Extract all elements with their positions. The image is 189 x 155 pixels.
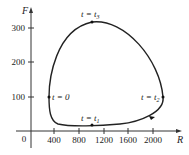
y-tick-label-300: 300 [12,23,26,33]
label-t2: t = t2 [141,92,160,103]
y-tick-label-100: 100 [12,92,26,102]
x-tick-label-1600: 1600 [119,135,138,145]
x-tick-label-1200: 1200 [95,135,114,145]
x-tick-label-400: 400 [47,135,61,145]
direction-arrow-icon [149,116,155,120]
x-axis-arrow-icon [176,129,182,133]
label-t3: t = t3 [81,9,100,20]
point-t0 [48,96,51,99]
x-axis-label: R [176,134,183,145]
phase-plot: 300 200 100 0 400 800 1200 1600 2000 F R… [0,0,189,155]
label-t0: t = 0 [52,92,70,102]
point-t2 [162,96,165,99]
y-tick-label-200: 200 [12,57,26,67]
trajectory-curve [49,22,163,126]
y-axis-label: F [21,5,29,16]
origin-label: 0 [22,134,27,144]
x-tick-label-2000: 2000 [144,135,163,145]
y-axis-arrow-icon [29,7,33,13]
x-tick-label-800: 800 [72,135,86,145]
point-t3 [91,21,94,24]
point-t1 [91,124,94,127]
label-t1: t = t1 [81,113,100,124]
